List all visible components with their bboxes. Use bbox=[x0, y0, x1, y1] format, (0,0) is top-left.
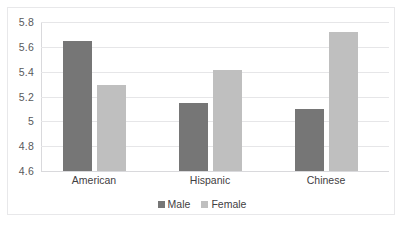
bar-group bbox=[63, 22, 126, 171]
bar-hispanic-male[interactable] bbox=[179, 103, 208, 171]
legend-label: Female bbox=[211, 198, 246, 210]
bar-chinese-male[interactable] bbox=[295, 109, 324, 171]
chart-legend: MaleFemale bbox=[8, 198, 396, 210]
y-axis-tick-label: 5.8 bbox=[19, 16, 34, 28]
y-axis-tick-label: 5.2 bbox=[19, 91, 34, 103]
gridline bbox=[41, 171, 389, 172]
y-axis-tick-label: 4.6 bbox=[19, 165, 34, 177]
bar-american-female[interactable] bbox=[97, 85, 126, 171]
bar-group bbox=[179, 22, 242, 171]
bars-layer bbox=[41, 22, 389, 171]
legend-swatch-icon bbox=[201, 201, 208, 208]
x-axis-label-american: American bbox=[72, 174, 116, 186]
bar-chinese-female[interactable] bbox=[329, 32, 358, 171]
y-axis-tick-label: 5.4 bbox=[19, 66, 34, 78]
legend-item-male[interactable]: Male bbox=[158, 198, 191, 210]
y-axis-tick-labels: 5.85.65.45.254.84.6 bbox=[8, 22, 38, 171]
bar-hispanic-female[interactable] bbox=[213, 70, 242, 171]
legend-item-female[interactable]: Female bbox=[201, 198, 246, 210]
legend-label: Male bbox=[168, 198, 191, 210]
chart-container: 5.85.65.45.254.84.6 AmericanHispanicChin… bbox=[7, 7, 395, 215]
y-axis-tick-label: 4.8 bbox=[19, 140, 34, 152]
x-axis-label-chinese: Chinese bbox=[307, 174, 346, 186]
legend-swatch-icon bbox=[158, 201, 165, 208]
plot-area bbox=[41, 22, 389, 171]
bar-american-male[interactable] bbox=[63, 41, 92, 171]
x-axis-label-hispanic: Hispanic bbox=[190, 174, 230, 186]
y-axis-tick-label: 5 bbox=[28, 115, 34, 127]
x-axis-category-labels: AmericanHispanicChinese bbox=[41, 174, 389, 192]
y-axis-tick-label: 5.6 bbox=[19, 41, 34, 53]
bar-group bbox=[295, 22, 358, 171]
